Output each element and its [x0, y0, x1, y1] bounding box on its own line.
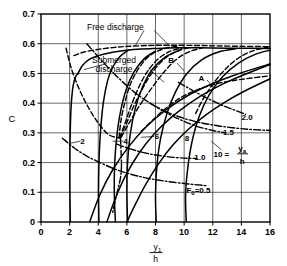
x-tick-label: 6 — [124, 227, 129, 237]
annotation-free-discharge: Free discharge — [87, 22, 144, 32]
curve-dashdot-1.5-label-line — [150, 103, 226, 133]
x-axis-title-denominator: h — [153, 254, 158, 264]
y-axis-title: C — [9, 113, 16, 124]
annotation-6: 6 — [155, 132, 160, 141]
x-tick-label: 16 — [265, 227, 275, 237]
annotation-b: B — [168, 56, 174, 65]
y-tick-label: 0.5 — [22, 69, 35, 79]
annotation-F0: F0=0.5 — [186, 186, 211, 196]
x-tick-label: 0 — [38, 227, 43, 237]
annotation-1-5: 1.5 — [223, 128, 235, 137]
annotation-8: 8 — [185, 134, 190, 143]
annotation-2-0: 2.0 — [242, 113, 254, 122]
annotation-ya-numerator: ya — [238, 144, 246, 154]
x-tick-label: 14 — [236, 227, 246, 237]
y-tick-label: 0.1 — [22, 187, 35, 197]
leader-label-2-leader — [70, 141, 80, 143]
leader-B-leader — [177, 63, 184, 71]
annotation-10-: 10 = — [213, 150, 229, 159]
x-tick-label: 10 — [179, 227, 189, 237]
annotation-a: A — [198, 74, 204, 83]
discharge-coefficient-chart: 024681012141600.10.20.30.40.50.60.7Cy1hF… — [0, 0, 287, 266]
y-tick-label: 0.3 — [22, 128, 35, 138]
x-tick-label: 4 — [96, 227, 101, 237]
annotation-discharge: discharge — [96, 64, 133, 74]
x-tick-label: 2 — [67, 227, 72, 237]
chart-canvas: 024681012141600.10.20.30.40.50.60.7Cy1hF… — [0, 0, 287, 266]
x-tick-label: 8 — [153, 227, 158, 237]
annotation-1-0: 1.0 — [194, 153, 206, 162]
y-tick-label: 0.6 — [22, 39, 35, 49]
curve-ya-h-curve-1.0 — [127, 79, 270, 222]
y-tick-label: 0.2 — [22, 158, 35, 168]
y-tick-label: 0.4 — [22, 98, 35, 108]
x-tick-label: 12 — [208, 227, 218, 237]
leader-free-discharge-leader2 — [135, 30, 144, 45]
annotation-h: h — [240, 157, 245, 166]
annotation-2: 2 — [80, 137, 85, 146]
annotation-4: 4 — [123, 137, 128, 146]
y-tick-label: 0 — [30, 217, 35, 227]
y-tick-label: 0.7 — [22, 9, 35, 19]
